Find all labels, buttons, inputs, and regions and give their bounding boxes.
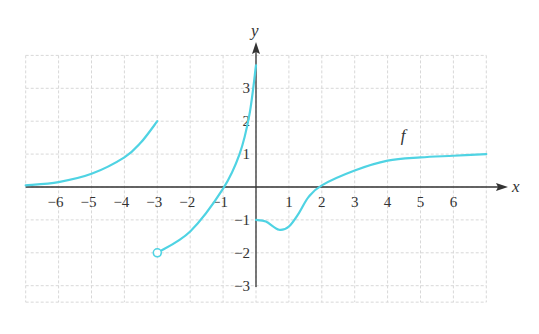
y-tick-label: −1 xyxy=(234,212,250,228)
x-axis-label: x xyxy=(511,177,520,196)
x-tick-label: −3 xyxy=(146,194,162,210)
function-graph: −6−5−4−3−2−1123456−3−2−1123 x y f xyxy=(0,0,539,334)
open-endpoint-marker xyxy=(153,249,161,257)
x-tick-label: −4 xyxy=(113,194,129,210)
y-tick-label: 3 xyxy=(243,80,251,96)
function-label: f xyxy=(401,126,408,145)
x-tick-label: −5 xyxy=(81,194,97,210)
x-tick-label: 2 xyxy=(318,194,326,210)
y-tick-label: −2 xyxy=(234,245,250,261)
y-axis-label: y xyxy=(249,21,259,40)
x-tick-label: 1 xyxy=(285,194,293,210)
curve-segment xyxy=(256,154,486,230)
axes xyxy=(26,42,508,287)
x-tick-label: −2 xyxy=(179,194,195,210)
x-tick-label: −6 xyxy=(48,194,64,210)
x-tick-label: 4 xyxy=(384,194,392,210)
x-tick-label: 3 xyxy=(351,194,359,210)
y-tick-label: −3 xyxy=(234,278,250,294)
x-tick-label: 5 xyxy=(417,194,425,210)
x-tick-label: 6 xyxy=(450,194,458,210)
y-tick-label: 1 xyxy=(243,146,251,162)
